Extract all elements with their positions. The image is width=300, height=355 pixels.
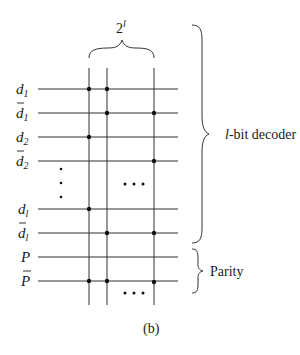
row-label-d2-bar: d2: [16, 151, 29, 171]
decoder-diagram: 2l d1: [0, 0, 300, 355]
horizontal-ellipsis-lower: [124, 292, 145, 295]
vertical-ellipsis: [60, 168, 63, 199]
parity-label: Parity: [210, 264, 243, 279]
row-label-p-bar: P: [20, 271, 31, 289]
row-label-d1-bar: d1: [16, 103, 29, 123]
svg-text:dl: dl: [18, 225, 29, 243]
top-brace-label: 2l: [116, 18, 126, 36]
svg-text:dl: dl: [18, 201, 29, 219]
svg-text:P: P: [20, 249, 30, 265]
top-brace: [89, 40, 154, 58]
svg-text:d2: d2: [16, 153, 29, 171]
figure-caption: (b): [143, 321, 160, 337]
connection-dots: [87, 87, 156, 284]
horizontal-ellipsis-upper: [124, 183, 145, 186]
brace-base: 2: [116, 21, 123, 36]
svg-text:P: P: [20, 273, 30, 289]
row-label-dl: dl: [18, 201, 29, 219]
svg-text:d1: d1: [16, 105, 29, 123]
brace-exponent: l: [123, 18, 126, 29]
svg-text:d1: d1: [16, 81, 29, 99]
row-label-p: P: [20, 249, 30, 265]
decoder-label: l-bit decoder: [225, 127, 296, 142]
svg-text:d2: d2: [16, 129, 29, 147]
decoder-brace: [192, 25, 209, 243]
row-label-d1: d1: [16, 81, 29, 99]
row-label-dl-bar: dl: [18, 223, 29, 243]
parity-brace: [192, 249, 203, 293]
row-label-d2: d2: [16, 129, 29, 147]
